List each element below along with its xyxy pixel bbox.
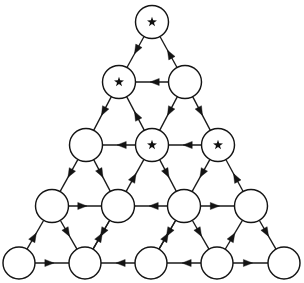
graph-node-r4c4[interactable] <box>235 190 268 223</box>
arrowhead-icon <box>195 106 202 116</box>
node-circle[interactable] <box>201 247 233 279</box>
node-circle[interactable] <box>268 247 300 279</box>
arrowhead-icon <box>210 202 219 209</box>
arrowhead-icon <box>227 233 235 243</box>
arrowhead-icon <box>62 227 70 237</box>
graph-node-r5c2[interactable] <box>69 247 101 279</box>
arrowhead-icon <box>116 259 125 266</box>
arrowhead-icon <box>162 168 169 178</box>
arrowhead-icon <box>167 106 174 116</box>
arrowhead-icon <box>261 227 269 237</box>
arrowhead-icon <box>150 78 159 85</box>
node-circle[interactable] <box>70 129 103 162</box>
arrowhead-icon <box>117 141 126 148</box>
graph-node-r3c1[interactable] <box>70 129 103 162</box>
arrowhead-icon <box>128 174 136 184</box>
arrowhead-icon <box>161 233 169 243</box>
node-circle[interactable] <box>3 247 35 279</box>
arrowhead-icon <box>233 174 241 184</box>
graph-node-r3c3[interactable] <box>202 129 235 162</box>
arrowhead-icon <box>194 227 202 237</box>
graph-node-r1c1[interactable] <box>136 6 169 39</box>
arrowhead-icon <box>134 111 141 121</box>
arrowhead-icon <box>149 202 158 209</box>
node-circle[interactable] <box>235 190 268 223</box>
arrowhead-icon <box>100 227 108 237</box>
graph-node-r2c1[interactable] <box>103 66 136 99</box>
arrowhead-icon <box>29 233 37 243</box>
arrowhead-icon <box>167 50 175 60</box>
graph-node-r4c2[interactable] <box>102 190 135 223</box>
node-circle[interactable] <box>135 247 167 279</box>
graph-node-r5c3[interactable] <box>135 247 167 279</box>
arrowhead-icon <box>243 259 252 266</box>
arrowhead-icon <box>183 141 192 148</box>
arrowhead-icon <box>101 106 108 116</box>
graph-node-r4c3[interactable] <box>168 190 201 223</box>
node-circle[interactable] <box>69 247 101 279</box>
triangular-grid-digraph <box>0 0 304 283</box>
arrowhead-icon <box>78 202 87 209</box>
graph-node-r2c2[interactable] <box>169 66 202 99</box>
arrowhead-icon <box>182 259 191 266</box>
graph-node-r5c1[interactable] <box>3 247 35 279</box>
arrowhead-icon <box>200 168 208 178</box>
graph-node-r4c1[interactable] <box>36 190 69 223</box>
node-circle[interactable] <box>168 190 201 223</box>
arrowhead-icon <box>68 168 76 178</box>
graph-node-r5c5[interactable] <box>268 247 300 279</box>
arrowhead-icon <box>96 168 103 178</box>
figure-canvas <box>0 0 304 283</box>
graph-node-r3c2[interactable] <box>136 129 169 162</box>
graph-node-r5c4[interactable] <box>201 247 233 279</box>
arrowhead-icon <box>45 259 54 266</box>
arrowhead-icon <box>134 44 142 54</box>
node-circle[interactable] <box>102 190 135 223</box>
nodes-layer <box>3 6 300 280</box>
node-circle[interactable] <box>36 190 69 223</box>
node-circle[interactable] <box>169 66 202 99</box>
